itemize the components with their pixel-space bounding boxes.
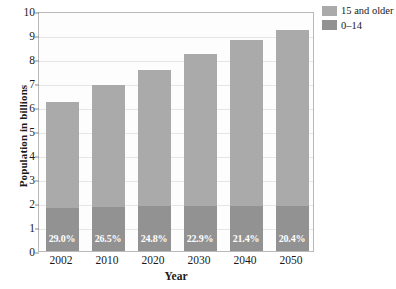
bar-segment-15-and-older	[46, 102, 79, 208]
x-axis-tick-label: 2040	[234, 254, 257, 266]
bar-percent-label: 29.0%	[46, 233, 79, 244]
x-axis-tick-label: 2010	[96, 254, 119, 266]
bar-column: 22.9%	[184, 54, 217, 251]
bar-segment-0-14: 20.4%	[276, 206, 309, 251]
bar-segment-0-14: 21.4%	[230, 206, 263, 251]
bar-segment-15-and-older	[276, 30, 309, 206]
legend-label: 15 and older	[341, 5, 394, 17]
y-axis-tick-mark	[35, 253, 39, 254]
chart-legend: 15 and older0–14	[322, 5, 396, 34]
plot-area: 012345678910 29.0%26.5%24.8%22.9%21.4%20…	[38, 12, 314, 252]
bar-percent-label: 20.4%	[276, 233, 309, 244]
bar-column: 29.0%	[46, 102, 79, 251]
bar-segment-15-and-older	[138, 70, 171, 206]
chart-figure: Population in billions 012345678910 29.0…	[0, 0, 396, 289]
bar-segment-0-14: 24.8%	[138, 206, 171, 251]
bar-percent-label: 22.9%	[184, 233, 217, 244]
bar-column: 26.5%	[92, 85, 125, 251]
legend-swatch	[322, 20, 337, 30]
bar-column: 21.4%	[230, 40, 263, 251]
legend-item: 0–14	[322, 20, 396, 32]
bar-percent-label: 26.5%	[92, 233, 125, 244]
bar-column: 24.8%	[138, 70, 171, 251]
bar-segment-15-and-older	[184, 54, 217, 206]
y-axis-label: Population in billions	[17, 51, 29, 221]
bar-percent-label: 21.4%	[230, 233, 263, 244]
x-axis-label: Year	[38, 270, 314, 282]
bar-column: 20.4%	[276, 30, 309, 251]
x-axis-tick-label: 2050	[280, 254, 303, 266]
bar-percent-label: 24.8%	[138, 233, 171, 244]
bar-segment-15-and-older	[230, 40, 263, 206]
legend-swatch	[322, 6, 337, 16]
x-axis-tick-label: 2020	[142, 254, 165, 266]
bar-segment-0-14: 29.0%	[46, 208, 79, 251]
bar-segment-15-and-older	[92, 85, 125, 207]
bar-segment-0-14: 22.9%	[184, 206, 217, 251]
x-axis-tick-label: 2030	[188, 254, 211, 266]
x-axis-tick-label: 2002	[50, 254, 73, 266]
legend-label: 0–14	[341, 20, 362, 32]
legend-item: 15 and older	[322, 5, 396, 17]
bar-segment-0-14: 26.5%	[92, 207, 125, 251]
bar-series: 29.0%26.5%24.8%22.9%21.4%20.4%	[39, 13, 313, 251]
